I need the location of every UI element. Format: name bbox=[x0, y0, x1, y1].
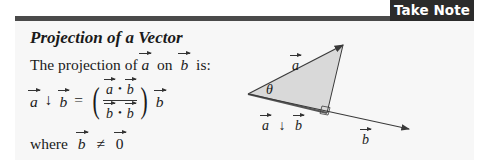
diagram-projection-label: a ↓ b bbox=[262, 114, 302, 134]
diagram-label-b: b bbox=[362, 128, 369, 148]
diagram-label-theta: θ bbox=[266, 82, 273, 98]
projection-diagram bbox=[0, 0, 496, 160]
diagram-proj-arrow-icon: ↓ bbox=[279, 118, 286, 133]
diagram-proj-b: b bbox=[295, 114, 302, 134]
diagram-label-a: a bbox=[292, 54, 299, 74]
diagram-proj-a: a bbox=[262, 114, 269, 134]
